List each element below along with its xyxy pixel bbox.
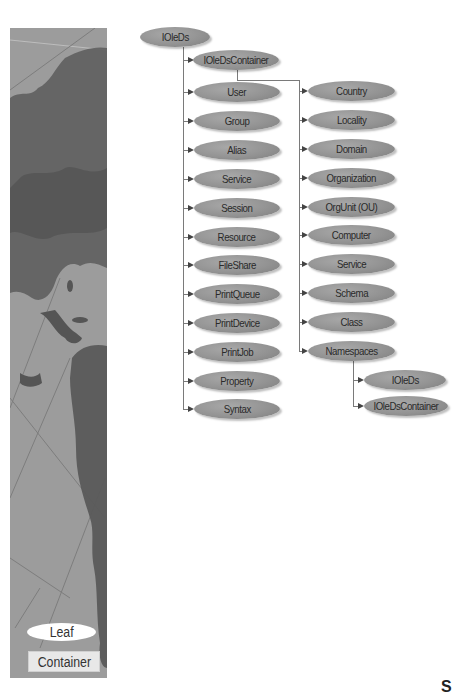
node-syntax[interactable]: Syntax <box>194 399 280 419</box>
node-group[interactable]: Group <box>194 111 280 131</box>
node-label: Service <box>337 258 366 270</box>
container-branch-down <box>237 70 238 80</box>
node-namespaces-ioleds[interactable]: IOleDs <box>364 370 446 390</box>
node-user[interactable]: User <box>194 82 280 102</box>
node-property[interactable]: Property <box>194 371 280 391</box>
node-resource[interactable]: Resource <box>194 227 280 247</box>
node-printjob[interactable]: PrintJob <box>194 342 280 362</box>
world-map-panel: Leaf Container <box>10 28 107 678</box>
node-locality[interactable]: Locality <box>308 110 395 130</box>
node-label: Service <box>222 173 251 185</box>
node-label: OrgUnit (OU) <box>326 201 378 213</box>
legend-leaf-label: Leaf <box>50 624 74 640</box>
node-fileshare[interactable]: FileShare <box>194 255 280 275</box>
node-alias[interactable]: Alias <box>194 140 280 160</box>
node-orgunit[interactable]: OrgUnit (OU) <box>308 197 395 217</box>
node-label: Locality <box>337 114 366 126</box>
node-label: User <box>228 86 247 98</box>
node-label: IOleDsContainer <box>374 400 439 412</box>
node-domain[interactable]: Domain <box>308 139 395 159</box>
node-session[interactable]: Session <box>194 198 280 218</box>
node-label: Session <box>221 202 252 214</box>
node-label: Computer <box>332 229 371 241</box>
node-organization[interactable]: Organization <box>308 168 395 188</box>
root-trunk-line <box>183 47 184 410</box>
node-label: PrintQueue <box>215 288 260 300</box>
node-root-ioleds[interactable]: IOleDs <box>140 27 210 47</box>
node-ioledscontainer[interactable]: IOleDsContainer <box>193 50 279 70</box>
node-label: Property <box>220 375 253 387</box>
node-label: Alias <box>228 144 247 156</box>
node-printqueue[interactable]: PrintQueue <box>194 284 280 304</box>
node-label: Namespaces <box>325 345 377 357</box>
node-label: PrintJob <box>221 346 253 358</box>
node-printdevice[interactable]: PrintDevice <box>194 313 280 333</box>
node-service[interactable]: Service <box>194 169 280 189</box>
legend-container: Container <box>28 651 100 672</box>
node-label: Syntax <box>224 403 251 415</box>
node-label: FileShare <box>218 259 255 271</box>
node-class[interactable]: Class <box>308 312 395 332</box>
node-label: Country <box>336 85 367 97</box>
node-label: Domain <box>336 143 367 155</box>
node-label: Resource <box>218 231 256 243</box>
node-computer[interactable]: Computer <box>308 225 395 245</box>
node-label: PrintDevice <box>215 317 260 329</box>
node-label: IOleDs <box>162 31 189 43</box>
container-branch-across <box>237 80 299 81</box>
node-label: IOleDs <box>392 374 419 386</box>
node-label: Group <box>225 115 250 127</box>
node-namespaces[interactable]: Namespaces <box>308 341 395 361</box>
legend-leaf: Leaf <box>27 623 96 641</box>
node-label: Class <box>340 316 362 328</box>
node-label: Organization <box>327 172 377 184</box>
legend-container-label: Container <box>37 654 90 670</box>
node-namespaces-ioledscontainer[interactable]: IOleDsContainer <box>364 396 448 416</box>
map-illustration <box>10 28 107 678</box>
node-label: Schema <box>335 287 368 299</box>
node-country[interactable]: Country <box>308 81 395 101</box>
node-service-container[interactable]: Service <box>308 254 395 274</box>
page-edge-glyph: S <box>441 678 452 694</box>
namespaces-trunk-line <box>353 361 354 407</box>
node-label: IOleDsContainer <box>204 54 269 66</box>
node-schema[interactable]: Schema <box>308 283 395 303</box>
